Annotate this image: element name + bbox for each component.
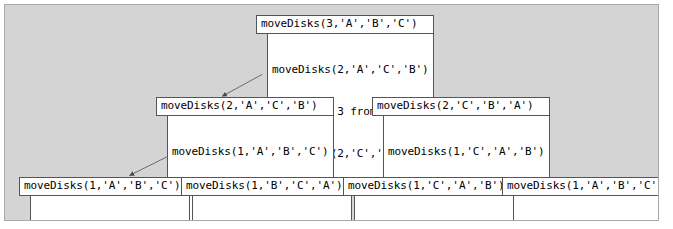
node-leaf-3-body: move disk 1 from C to A — [354, 195, 514, 221]
node-root-signature: moveDisks(3,'A','B','C') — [256, 15, 434, 34]
node-leaf-4[interactable]: moveDisks(1,'A','B','C') move disk 1 fro… — [502, 177, 659, 221]
node-leaf-4-body: move disk 1 from A to B — [513, 195, 659, 221]
node-leaf-2[interactable]: moveDisks(1,'B','C','A') move disk 1 fro… — [181, 177, 352, 221]
node-leaf-4-signature: moveDisks(1,'A','B','C') — [502, 177, 659, 196]
node-leaf-3[interactable]: moveDisks(1,'C','A','B') move disk 1 fro… — [343, 177, 514, 221]
node-mid-right-signature: moveDisks(2,'C','B','A') — [372, 97, 550, 116]
node-leaf-2-signature: moveDisks(1,'B','C','A') — [181, 177, 352, 196]
node-mid-left-signature: moveDisks(2,'A','C','B') — [156, 97, 334, 116]
node-leaf-1-body: move disk 1 from A to B — [30, 195, 190, 221]
node-leaf-3-signature: moveDisks(1,'C','A','B') — [343, 177, 514, 196]
diagram-canvas: moveDisks(3,'A','B','C') moveDisks(2,'A'… — [4, 4, 659, 221]
node-root-body-line-1: moveDisks(2,'A','C','B') — [272, 63, 429, 77]
node-leaf-1-signature: moveDisks(1,'A','B','C') — [19, 177, 190, 196]
node-mid-left-body-line-1: moveDisks(1,'A','B','C') — [172, 145, 329, 159]
node-leaf-2-body: move disk 1 from B to C — [192, 195, 352, 221]
node-leaf-1[interactable]: moveDisks(1,'A','B','C') move disk 1 fro… — [19, 177, 190, 221]
node-mid-right-body-line-1: moveDisks(1,'C','A','B') — [388, 145, 545, 159]
